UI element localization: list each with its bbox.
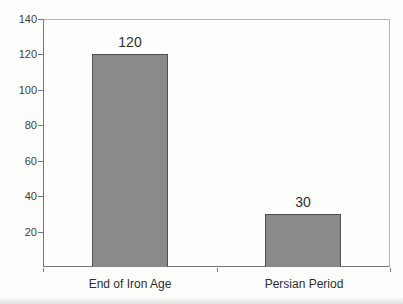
y-axis-tick-label: 120 — [0, 47, 37, 61]
bar-value-label: 30 — [265, 194, 341, 211]
y-axis-tick-label: 140 — [0, 12, 37, 26]
x-axis-category-label: End of Iron Age — [43, 277, 217, 292]
y-axis-tick-mark — [38, 90, 43, 91]
y-axis-tick-label: 20 — [0, 225, 37, 239]
y-axis-tick-mark — [38, 54, 43, 55]
x-axis-category-label: Persian Period — [217, 277, 391, 292]
y-axis-tick-label: 100 — [0, 83, 37, 97]
bar-end-of-iron-age — [92, 54, 168, 267]
y-axis-tick-mark — [38, 19, 43, 20]
bar-value-label: 120 — [92, 34, 168, 51]
scan-shadow-artifact — [0, 297, 403, 304]
bar-persian-period — [265, 214, 341, 267]
y-axis-tick-mark — [38, 125, 43, 126]
y-axis-tick-label: 80 — [0, 118, 37, 132]
y-axis-tick-mark — [38, 196, 43, 197]
x-axis-tick-mark — [43, 268, 44, 272]
y-axis-tick-mark — [38, 232, 43, 233]
y-axis-tick-label: 60 — [0, 154, 37, 168]
x-axis-tick-mark — [390, 268, 391, 272]
x-axis-tick-mark — [217, 268, 218, 272]
bar-chart: 20406080100120140 12030 End of Iron AgeP… — [0, 0, 403, 304]
y-axis-tick-mark — [38, 161, 43, 162]
y-axis-tick-label: 40 — [0, 189, 37, 203]
